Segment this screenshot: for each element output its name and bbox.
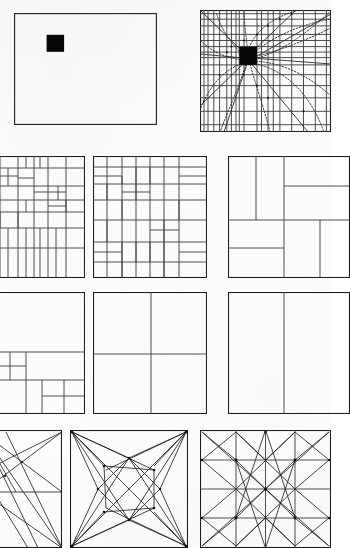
panel-diagonal-lattice-armature-right	[200, 430, 331, 548]
panel-halved-rectangle-right	[228, 292, 350, 414]
panel-frame	[0, 157, 85, 278]
panel-rectangle-with-regulating-grid-and-dotted-curves	[200, 10, 331, 132]
panel-irregular-subdivision-grid-center	[93, 156, 207, 278]
subdivision-lines	[228, 156, 350, 278]
panel-frame	[94, 293, 207, 414]
black-square-marker	[239, 47, 257, 65]
panel-diagonal-star-armature-center	[70, 430, 188, 548]
panel-nested-square-subdivision-left	[0, 292, 85, 414]
subdivision-lines	[93, 292, 207, 414]
diagonal-armature-lines	[0, 432, 62, 548]
panel-frame	[229, 157, 350, 278]
black-square-marker	[47, 35, 65, 52]
diagonal-armature-lines	[72, 432, 186, 546]
subdivision-lines	[0, 292, 85, 414]
panel-diagonal-harmonic-armature-left	[0, 430, 62, 548]
panel-plain-rectangle-with-black-square	[14, 13, 157, 125]
panel-frame	[15, 14, 157, 125]
panel-frame	[229, 293, 350, 414]
subdivision-lines	[0, 156, 85, 278]
subdivision-lines	[93, 156, 207, 278]
panel-coarse-subdivision-grid-right	[228, 156, 350, 278]
panel-irregular-subdivision-grid-left	[0, 156, 85, 278]
panel-quartered-square-center	[93, 292, 207, 414]
vertical-regulating-lines	[204, 10, 326, 132]
